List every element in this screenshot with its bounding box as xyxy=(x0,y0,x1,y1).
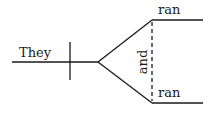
upper-predicate-word: ran xyxy=(158,2,181,17)
lower-predicate-word: ran xyxy=(158,85,181,100)
sentence-diagram: They ran ran and xyxy=(0,0,215,113)
conjunction-word: and xyxy=(135,50,150,74)
subject-word: They xyxy=(19,45,52,60)
